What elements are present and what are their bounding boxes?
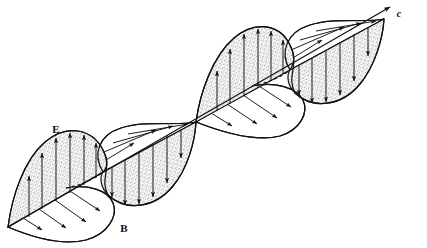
label-magnetic-field: B [120, 222, 128, 234]
label-electric-field: E [52, 123, 59, 135]
em-wave-figure: E B c [0, 0, 427, 248]
em-wave-canvas: E B c [0, 0, 427, 248]
label-propagation-speed: c [397, 8, 402, 19]
